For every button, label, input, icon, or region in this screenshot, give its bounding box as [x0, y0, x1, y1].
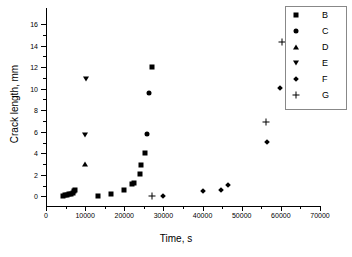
y-tick-label: 6 — [16, 128, 38, 135]
x-tick-minor — [300, 206, 301, 209]
data-point-b — [149, 65, 154, 70]
data-point-b — [64, 193, 69, 198]
y-tick-label: 0 — [16, 193, 38, 200]
x-tick-label: 10000 — [75, 212, 94, 219]
y-tick-label: 8 — [16, 107, 38, 114]
y-tick-label: 12 — [16, 64, 38, 71]
x-tick-minor — [183, 206, 184, 209]
x-tick-major — [320, 206, 321, 211]
y-tick-label: 2 — [16, 171, 38, 178]
data-point-b — [137, 171, 142, 176]
data-point-b — [66, 192, 71, 197]
x-tick-major — [163, 206, 164, 211]
data-point-e — [82, 133, 88, 138]
x-tick-minor — [105, 206, 106, 209]
data-point-f — [226, 182, 232, 188]
y-tick-label: 10 — [16, 85, 38, 92]
data-point-d — [82, 161, 88, 166]
legend-marker-icon — [286, 7, 306, 23]
data-point-f — [218, 187, 224, 193]
x-tick-label: 60000 — [271, 212, 290, 219]
data-point-b — [109, 191, 114, 196]
y-tick-label: 16 — [16, 21, 38, 28]
data-point-g — [149, 192, 156, 199]
legend-label: G — [322, 90, 329, 100]
data-point-f — [200, 189, 206, 195]
x-tick-major — [124, 206, 125, 211]
data-point-b — [95, 193, 100, 198]
x-tick-major — [242, 206, 243, 211]
x-tick-minor — [222, 206, 223, 209]
legend-marker-icon — [286, 55, 306, 71]
legend-label: B — [322, 10, 328, 20]
data-point-c — [146, 91, 151, 96]
x-tick-label: 0 — [44, 212, 48, 219]
data-point-b — [131, 180, 136, 185]
x-tick-label: 70000 — [310, 212, 329, 219]
legend-item-f[interactable]: F — [286, 71, 346, 87]
data-point-b — [62, 193, 67, 198]
legend-marker-icon — [286, 87, 306, 103]
data-point-b — [122, 187, 127, 192]
data-point-b — [129, 181, 134, 186]
x-tick-minor — [66, 206, 67, 209]
data-point-b — [139, 163, 144, 168]
data-point-g — [263, 118, 270, 125]
data-point-b — [68, 191, 73, 196]
data-point-b — [71, 189, 76, 194]
legend-marker-icon — [286, 23, 306, 39]
data-point-b — [72, 188, 77, 193]
x-tick-label: 30000 — [154, 212, 173, 219]
legend: BCDEFG — [285, 6, 347, 110]
legend-marker-icon — [286, 39, 306, 55]
legend-label: E — [322, 58, 328, 68]
legend-label: D — [322, 42, 329, 52]
legend-label: F — [322, 74, 328, 84]
data-point-f — [277, 85, 283, 91]
data-point-c — [145, 132, 150, 137]
x-tick-label: 20000 — [115, 212, 134, 219]
legend-label: C — [322, 26, 329, 36]
x-tick-label: 40000 — [193, 212, 212, 219]
legend-item-g[interactable]: G — [286, 87, 346, 103]
data-point-b — [143, 150, 148, 155]
legend-item-b[interactable]: B — [286, 7, 346, 23]
data-point-b — [60, 193, 65, 198]
y-tick-label: 14 — [16, 42, 38, 49]
data-point-e — [83, 77, 89, 82]
x-axis-label: Time, s — [0, 233, 352, 244]
legend-item-c[interactable]: C — [286, 23, 346, 39]
x-tick-major — [281, 206, 282, 211]
plot-area — [46, 8, 320, 206]
data-point-b — [70, 190, 75, 195]
data-point-f — [160, 193, 166, 199]
x-tick-major — [203, 206, 204, 211]
x-tick-major — [85, 206, 86, 211]
x-tick-minor — [261, 206, 262, 209]
x-tick-major — [46, 206, 47, 211]
legend-marker-icon — [286, 71, 306, 87]
x-tick-label: 50000 — [232, 212, 251, 219]
legend-item-e[interactable]: E — [286, 55, 346, 71]
data-point-f — [264, 139, 270, 145]
chart-canvas: Crack length, mm 01000020000300004000050… — [0, 0, 352, 257]
legend-item-d[interactable]: D — [286, 39, 346, 55]
x-tick-minor — [144, 206, 145, 209]
y-tick-label: 4 — [16, 150, 38, 157]
